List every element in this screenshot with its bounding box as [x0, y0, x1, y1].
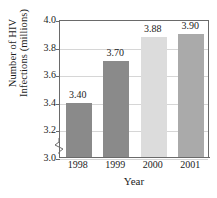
y-axis-tick-label: 3.2 — [30, 125, 56, 135]
bar — [141, 37, 167, 158]
x-axis-tick-label: 1998 — [58, 160, 98, 170]
y-axis-tick-mark — [56, 21, 60, 22]
bar — [103, 61, 129, 158]
x-axis-tick-label: 2000 — [133, 160, 173, 170]
y-axis-tick-mark — [56, 76, 60, 77]
bar-value-label: 3.90 — [170, 21, 210, 31]
y-axis-tick-label: 3.6 — [30, 70, 56, 80]
x-axis-tick-label: 1999 — [95, 160, 135, 170]
x-axis-title: Year — [59, 176, 209, 187]
bar-value-label: 3.40 — [58, 90, 98, 100]
bar-chart: Number of HIV Infections (millions) 4.03… — [0, 0, 217, 198]
x-axis-tick-label: 2001 — [170, 160, 210, 170]
y-axis-tick-label: 3.4 — [30, 98, 56, 108]
y-axis-title-line-1: Number of HIV — [7, 0, 18, 123]
y-axis-tick-mark — [56, 104, 60, 105]
bar-value-label: 3.88 — [133, 24, 173, 34]
bar-value-label: 3.70 — [95, 48, 135, 58]
y-axis-tick-label: 4.0 — [30, 15, 56, 25]
y-axis-tick-mark — [56, 131, 60, 132]
y-axis-tick-label: 3.0 — [30, 153, 56, 163]
bar — [178, 34, 204, 158]
axis-break-icon — [52, 138, 66, 154]
bar — [66, 103, 92, 158]
y-axis-tick-labels: 4.03.83.63.43.23.0 — [28, 0, 56, 198]
y-axis-tick-mark — [56, 49, 60, 50]
y-axis-tick-label: 3.8 — [30, 43, 56, 53]
x-axis-line — [59, 157, 210, 158]
